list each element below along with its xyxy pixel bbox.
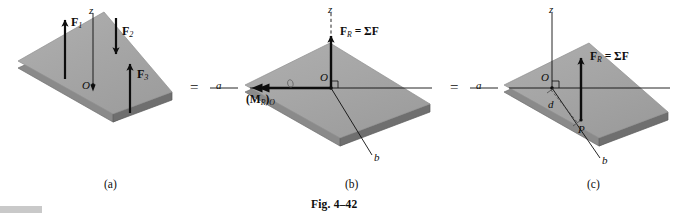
panel-caption-b: (b) [345,179,358,191]
equals-sign-2: = [450,80,458,95]
force-label-f2: F2 [122,25,133,39]
plate-b-face [245,43,430,138]
axis-label-b-b: b [374,152,380,163]
resultant-label-c: FR = ΣF [590,51,629,64]
point-label-p: P [578,124,585,135]
panel-b [245,13,432,155]
panel-caption-c: (c) [587,179,600,191]
axis-label-z-a: z [89,5,93,16]
origin-label-b: O [320,72,328,83]
figure-caption: Fig. 4–42 [311,199,358,211]
axis-label-a-c: a [476,80,482,91]
figure-canvas [0,0,674,217]
origin-label-a: O [82,80,90,91]
plate-a-face [18,12,172,114]
resultant-label-b: FR = ΣF [340,26,379,39]
force-label-f3: F3 [137,68,148,82]
scan-artifact-bar [0,206,42,213]
origin-label-c: O [541,72,549,83]
force-label-f1: F1 [71,16,82,30]
distance-label-d: d [548,99,554,110]
axis-label-z-c: z [549,4,553,15]
panel-c [504,13,670,158]
moment-label-b: (MR)O [246,94,275,107]
panel-a [18,12,172,122]
axis-label-z-b: z [328,4,332,15]
equals-sign-1: = [190,80,198,95]
axis-label-b-c: b [602,155,608,166]
origin-dot-a [91,83,95,87]
axis-label-a-b: a [216,80,222,91]
panel-caption-a: (a) [104,179,117,191]
